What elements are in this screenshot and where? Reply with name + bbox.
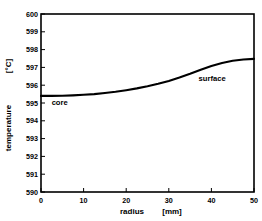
y-tick-label: 595 [26,99,38,108]
y-tick-label: 597 [26,63,38,72]
annotation-surface: surface [199,74,226,83]
x-tick-label: 50 [250,196,258,205]
x-tick-label: 10 [80,196,88,205]
y-tick-label: 599 [26,27,38,36]
y-tick-label: 590 [26,188,38,197]
y-tick-label: 594 [26,116,38,125]
x-tick-label: 40 [207,196,215,205]
y-tick-label: 596 [26,81,38,90]
x-tick-label: 30 [165,196,173,205]
y-axis-unit: [°C] [4,59,13,74]
plot-frame [41,14,254,192]
y-tick-label: 593 [26,134,38,143]
chart-figure: 600 599 598 597 596 595 594 593 592 591 … [0,0,262,221]
y-tick-label: 591 [26,170,38,179]
x-tick-label: 20 [122,196,130,205]
x-axis-unit: [mm] [162,207,182,216]
y-axis-tick-labels: 600 599 598 597 596 595 594 593 592 591 … [26,10,38,197]
y-tick-label: 598 [26,45,38,54]
x-axis-title: radius [120,207,145,216]
annotation-core: core [52,98,68,107]
x-tick-label: 0 [39,196,43,205]
y-axis-title: temperature [4,104,13,151]
y-tick-label: 600 [26,10,38,19]
temperature-radius-line-chart: 600 599 598 597 596 595 594 593 592 591 … [0,0,262,221]
y-tick-label: 592 [26,152,38,161]
x-axis-tick-labels: 0 10 20 30 40 50 [39,196,258,205]
